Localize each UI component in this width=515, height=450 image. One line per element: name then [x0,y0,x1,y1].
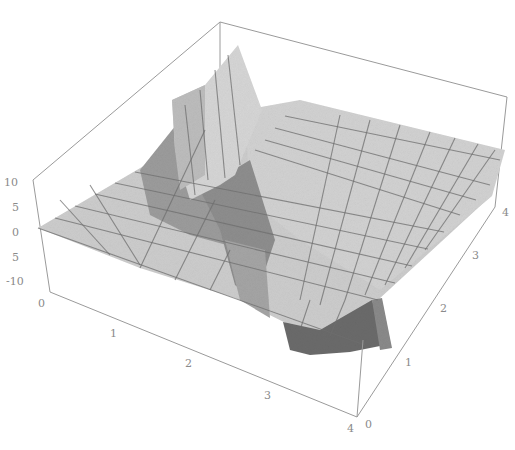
y-tick-2: 2 [440,302,447,315]
z-tick-10: 10 [4,176,18,189]
z-tick-neg10: -10 [6,275,24,288]
z-tick-5: 5 [12,201,19,214]
x-tick-0: 0 [38,297,45,310]
y-tick-3: 3 [472,249,479,262]
y-tick-0: 0 [365,418,372,431]
surface-plot: 10 5 0 5 -10 0 1 2 3 4 0 1 2 3 4 [0,0,515,450]
x-tick-1: 1 [110,327,117,340]
x-tick-4: 4 [347,422,354,435]
y-tick-4: 4 [502,206,509,219]
z-tick-0: 0 [12,226,19,239]
x-tick-2: 2 [185,357,192,370]
z-tick-neg5: 5 [12,251,19,264]
z-axis-labels: 10 5 0 5 -10 [4,176,24,288]
y-tick-1: 1 [405,356,412,369]
surface-mesh [38,45,505,355]
x-tick-3: 3 [264,389,271,402]
